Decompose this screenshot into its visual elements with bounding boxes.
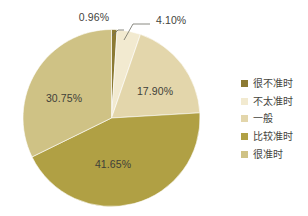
legend-item-一般[interactable]: 一般 [241,110,307,128]
legend-item-比较准时[interactable]: 比较准时 [241,128,307,146]
slice-callout-0.96: 0.96% [79,11,109,23]
legend-item-label: 很不准时 [253,78,293,89]
chart-legend: 很不准时不太准时一般比较准时很准时 [241,75,307,163]
legend-item-label: 一般 [253,113,273,124]
legend-item-很不准时[interactable]: 很不准时 [241,75,307,93]
slice-callout-4.10: 4.10% [156,14,186,26]
pie-slice-group [23,30,200,207]
slice-label-41.65: 41.65% [95,158,131,170]
legend-swatch-icon [241,98,248,105]
slice-label-30.75: 30.75% [46,92,82,104]
legend-item-label: 比较准时 [253,131,293,142]
legend-swatch-icon [241,151,248,158]
legend-item-不太准时[interactable]: 不太准时 [241,93,307,111]
legend-item-很准时[interactable]: 很准时 [241,145,307,163]
legend-swatch-icon [241,80,248,87]
legend-swatch-icon [241,115,248,122]
legend-item-label: 不太准时 [253,96,293,107]
slice-label-17.90: 17.90% [137,85,173,97]
legend-swatch-icon [241,133,248,140]
pie-chart-figure: 0.96% 4.10% 17.90% 41.65% 30.75% 很不准时不太准… [0,0,308,216]
legend-item-label: 很准时 [253,149,283,160]
